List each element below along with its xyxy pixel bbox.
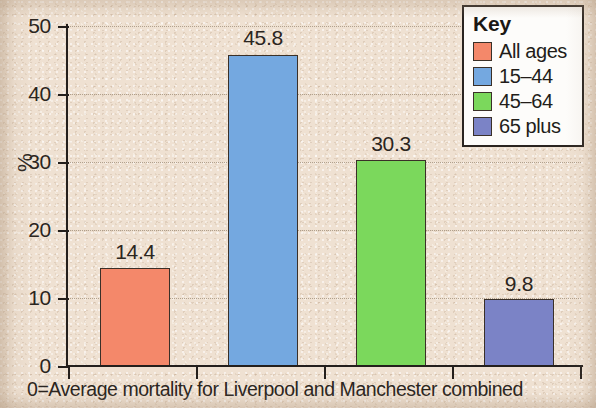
bar-all-ages[interactable] xyxy=(100,268,170,366)
legend-label-65-plus: 65 plus xyxy=(499,115,561,138)
gridline-20 xyxy=(68,230,581,231)
bar-chart-figure: 14.4 45.8 30.3 9.8 50 40 30 20 10 0 % Ke… xyxy=(0,0,596,408)
y-tick-mark-20 xyxy=(58,230,69,232)
y-tick-mark-50 xyxy=(58,26,69,28)
bar-45-64[interactable] xyxy=(356,160,426,366)
gridline-30 xyxy=(68,162,581,163)
y-tick-label-50: 50 xyxy=(5,14,51,38)
y-tick-label-40: 40 xyxy=(5,82,51,106)
y-axis-line xyxy=(66,24,68,368)
legend-item-all-ages[interactable]: All ages xyxy=(473,39,582,64)
bar-15-44[interactable] xyxy=(228,55,298,366)
legend-swatch-45-64 xyxy=(473,92,492,111)
bar-value-65-plus: 9.8 xyxy=(484,272,554,296)
y-tick-label-20: 20 xyxy=(5,218,51,242)
legend-swatch-65-plus xyxy=(473,117,492,136)
y-tick-label-10: 10 xyxy=(5,286,51,310)
bar-value-45-64: 30.3 xyxy=(356,132,426,156)
y-axis-title: % xyxy=(13,153,37,172)
y-tick-label-0: 0 xyxy=(5,354,51,378)
bar-65-plus[interactable] xyxy=(484,299,554,366)
legend-title: Key xyxy=(473,12,582,36)
x-tick-mark-4 xyxy=(580,366,582,379)
legend-label-45-64: 45–64 xyxy=(499,90,553,113)
legend-label-15-44: 15–44 xyxy=(499,65,553,88)
legend-label-all-ages: All ages xyxy=(499,40,567,63)
bar-value-all-ages: 14.4 xyxy=(100,240,170,264)
legend-item-65-plus[interactable]: 65 plus xyxy=(473,114,582,139)
legend: Key All ages 15–44 45–64 65 plus xyxy=(462,5,584,147)
y-tick-mark-10 xyxy=(58,298,69,300)
bar-value-15-44: 45.8 xyxy=(228,26,298,50)
chart-caption: 0=Average mortality for Liverpool and Ma… xyxy=(27,378,523,401)
legend-item-15-44[interactable]: 15–44 xyxy=(473,64,582,89)
legend-swatch-15-44 xyxy=(473,67,492,86)
y-tick-mark-30 xyxy=(58,162,69,164)
legend-swatch-all-ages xyxy=(473,42,492,61)
legend-item-45-64[interactable]: 45–64 xyxy=(473,89,582,114)
y-tick-mark-40 xyxy=(58,94,69,96)
